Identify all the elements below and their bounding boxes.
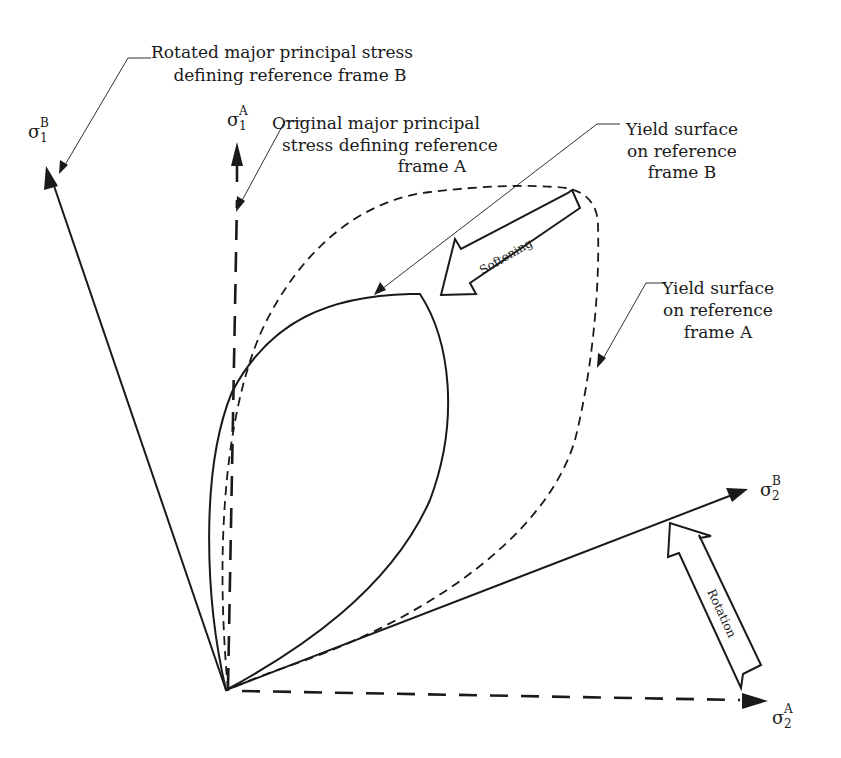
svg-text:σ: σ [28,121,40,142]
svg-text:σ: σ [760,479,772,500]
svg-text:frame B: frame B [648,162,717,182]
svg-text:Rotated major principal stress: Rotated major principal stress [151,42,413,62]
svg-text:A: A [238,104,248,118]
callout-rotated-major-principal-stress: Rotated major principal stress defining … [151,42,413,85]
softening-arrow: Softening [441,190,580,295]
axis-sigma2-B [226,488,748,690]
rotation-arrow: Rotation [668,523,761,688]
callout-yield-surface-frame-B: Yield surface on reference frame B [625,119,738,182]
svg-text:2: 2 [772,489,780,503]
yield-surface-rotation-diagram: Softening Rotation Rotated major princip… [0,0,841,758]
label-sigma1-B: σ 1 B [28,116,49,145]
callout-leader-rotated-major [59,58,151,174]
svg-text:on reference: on reference [663,300,773,320]
callout-original-major-principal-stress: Original major principal stress defining… [272,113,498,176]
label-sigma2-B: σ 2 B [760,474,781,503]
svg-text:defining reference frame B: defining reference frame B [173,65,406,85]
svg-text:σ: σ [772,707,784,728]
svg-text:frame A: frame A [398,156,467,176]
callout-yield-surface-frame-A: Yield surface on reference frame A [661,278,774,342]
svg-text:σ: σ [227,109,239,130]
svg-text:Yield surface: Yield surface [625,119,738,139]
svg-text:B: B [40,116,49,130]
svg-text:B: B [772,474,781,488]
svg-text:2: 2 [784,717,792,731]
svg-text:Yield surface: Yield surface [661,278,774,298]
callout-leader-yield-A [597,283,666,368]
svg-text:1: 1 [239,119,247,133]
label-sigma2-A: σ 2 A [772,702,793,731]
yield-surface-frame-A [222,186,598,690]
axis-sigma1-B [44,166,226,690]
arrowhead-icon [726,488,748,502]
svg-text:Original major principal: Original major principal [272,113,480,133]
svg-text:1: 1 [40,131,48,145]
arrowhead-icon [742,693,768,709]
svg-text:A: A [783,702,793,716]
yield-surface-frame-B [209,294,448,690]
svg-text:stress defining reference: stress defining reference [282,135,498,155]
arrowhead-icon [231,142,243,166]
svg-text:on reference: on reference [627,141,737,161]
arrowhead-icon [44,166,58,190]
axis-sigma2-A [242,691,768,709]
label-sigma1-A: σ 1 A [227,104,248,133]
svg-text:frame A: frame A [684,322,753,342]
